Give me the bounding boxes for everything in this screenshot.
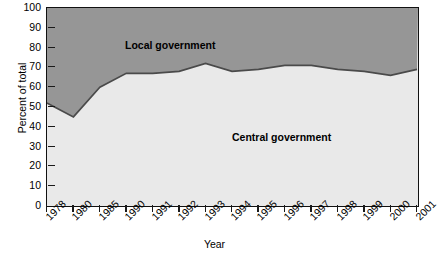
x-axis-title: Year — [0, 238, 429, 250]
y-tick-label-70: 70 — [8, 61, 41, 71]
y-tick-label-50: 50 — [8, 101, 41, 111]
y-tick-label-40: 40 — [8, 121, 41, 131]
y-tick-mark-60 — [48, 86, 55, 87]
y-tick-label-10: 10 — [8, 180, 41, 190]
central-government-label: Central government — [232, 131, 331, 143]
y-axis-tick-labels: 1009080706050403020100 — [8, 0, 41, 215]
y-tick-mark-30 — [48, 146, 55, 147]
y-tick-mark-50 — [48, 106, 55, 107]
y-tick-label-100: 100 — [8, 2, 41, 12]
y-tick-mark-90 — [48, 27, 55, 28]
y-tick-label-20: 20 — [8, 160, 41, 170]
y-tick-label-0: 0 — [8, 200, 41, 210]
y-tick-label-30: 30 — [8, 141, 41, 151]
y-tick-mark-80 — [48, 47, 55, 48]
y-tick-label-80: 80 — [8, 42, 41, 52]
local-government-label: Local government — [125, 39, 215, 51]
y-tick-label-60: 60 — [8, 81, 41, 91]
plot-area: Local government Central government — [46, 7, 419, 207]
y-tick-mark-70 — [48, 66, 55, 67]
y-tick-label-90: 90 — [8, 22, 41, 32]
y-tick-mark-10 — [48, 185, 55, 186]
area-chart-svg — [47, 8, 418, 206]
y-tick-mark-20 — [48, 165, 55, 166]
y-tick-mark-40 — [48, 126, 55, 127]
